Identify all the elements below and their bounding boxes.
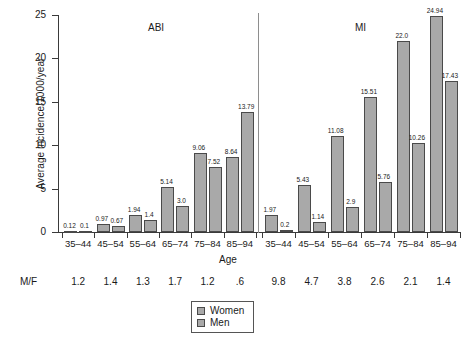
bar-women <box>265 215 278 232</box>
bar-value-label: 5.43 <box>297 176 310 183</box>
bar-women <box>129 215 142 232</box>
legend-item-women: Women <box>197 305 244 317</box>
bar-value-label: 1.97 <box>264 206 277 213</box>
bar-value-label: 1.14 <box>312 213 325 220</box>
bar-men <box>176 206 189 232</box>
bar-value-label: 17.43 <box>442 72 458 79</box>
bar-women <box>64 231 77 233</box>
y-tick-label: 10 <box>6 139 46 150</box>
bar-men <box>79 231 92 233</box>
bar-value-label: 13.79 <box>238 103 254 110</box>
bar-value-label: 8.64 <box>225 148 238 155</box>
bar-women <box>97 224 110 232</box>
x-axis-line <box>58 232 461 233</box>
bar-women <box>397 41 410 232</box>
legend-swatch-women <box>197 307 205 315</box>
y-tick-label: 15 <box>6 96 46 107</box>
legend-label-men: Men <box>210 318 229 328</box>
bar-men <box>379 182 392 232</box>
bar-value-label: 0.12 <box>63 222 76 229</box>
bar-value-label: 5.76 <box>378 173 391 180</box>
bar-men <box>209 167 222 232</box>
bar-value-label: 2.9 <box>346 198 355 205</box>
bar-women <box>194 153 207 232</box>
y-tick <box>52 232 58 233</box>
bar-men <box>412 143 425 232</box>
bar-value-label: 22.0 <box>396 32 409 39</box>
bar-value-label: 24.94 <box>427 7 443 14</box>
y-tick <box>52 58 58 59</box>
bar-value-label: 0.1 <box>80 222 89 229</box>
bar-value-label: 11.08 <box>328 127 344 134</box>
bar-men <box>112 226 125 232</box>
y-tick <box>52 15 58 16</box>
bar-value-label: 0.2 <box>280 221 289 228</box>
legend: Women Men <box>191 301 254 333</box>
bar-women <box>226 157 239 232</box>
bar-men <box>241 112 254 232</box>
chart-figure: Average incidence/1000/year 0510152025 A… <box>0 0 469 338</box>
y-tick <box>52 102 58 103</box>
bar-value-label: 5.14 <box>160 178 173 185</box>
bar-men <box>280 230 293 232</box>
bar-value-label: 15.51 <box>361 88 377 95</box>
bar-men <box>313 222 326 232</box>
bar-women <box>298 185 311 232</box>
bar-men <box>445 81 458 232</box>
bar-women <box>430 16 443 232</box>
bar-men <box>144 220 157 232</box>
legend-item-men: Men <box>197 317 244 329</box>
y-tick-label: 0 <box>6 226 46 237</box>
bar-value-label: 1.94 <box>128 206 141 213</box>
y-tick-label: 5 <box>6 183 46 194</box>
bar-women <box>364 97 377 232</box>
y-tick-label: 25 <box>6 9 46 20</box>
bar-value-label: 0.67 <box>111 217 124 224</box>
bar-value-label: 1.4 <box>145 211 154 218</box>
bar-women <box>331 136 344 232</box>
y-tick-label: 20 <box>6 52 46 63</box>
bar-women <box>161 187 174 232</box>
bar-value-label: 0.97 <box>96 215 109 222</box>
panel-divider <box>258 13 259 233</box>
x-tick-label: 85–94 <box>414 238 469 249</box>
bar-value-label: 9.06 <box>193 144 206 151</box>
mf-row-label: M/F <box>20 276 37 287</box>
bar-men <box>346 207 359 232</box>
panel-label-mi: MI <box>355 22 366 33</box>
legend-swatch-men <box>197 319 205 327</box>
legend-label-women: Women <box>210 306 244 316</box>
bar-value-label: 10.26 <box>409 134 425 141</box>
mf-ratio-value: 1.4 <box>414 276 469 287</box>
x-axis-title: Age <box>219 254 237 265</box>
panel-label-abi: ABI <box>148 22 164 33</box>
bar-value-label: 7.52 <box>208 158 221 165</box>
bar-value-label: 3.0 <box>177 197 186 204</box>
y-axis-line <box>58 15 59 233</box>
y-tick <box>52 145 58 146</box>
y-tick <box>52 189 58 190</box>
